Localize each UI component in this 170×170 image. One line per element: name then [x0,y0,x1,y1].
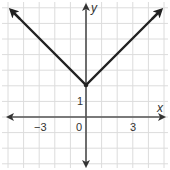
tick-label-3: 3 [130,122,136,133]
graph-figure: y x −3 0 3 1 [0,0,170,170]
x-axis-label: x [157,102,163,114]
tick-label-y1: 1 [77,96,83,107]
y-axis-label: y [91,2,97,14]
tick-label-0: 0 [76,122,82,133]
tick-label-neg3: −3 [34,122,47,133]
vertex-point [84,83,89,88]
coordinate-plane [0,0,170,170]
